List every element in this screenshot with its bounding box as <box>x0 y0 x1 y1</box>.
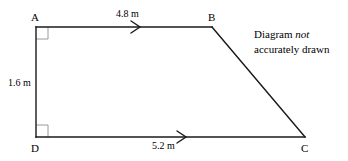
right-angle-marker-d <box>36 125 48 137</box>
right-angle-marker-a <box>36 27 48 39</box>
trapezium-figure <box>0 0 348 161</box>
note-line-1-emphasis: not <box>295 28 309 40</box>
geometry-diagram: A B C D 4.8 m 5.2 m 1.6 m Diagram not ac… <box>0 0 348 161</box>
vertex-label-b: B <box>208 12 215 23</box>
vertex-label-c: C <box>301 143 308 154</box>
note-line-1-prefix: Diagram <box>254 28 295 40</box>
vertex-label-a: A <box>31 12 39 23</box>
measure-label-dc: 5.2 m <box>152 141 175 151</box>
note-line-2: accurately drawn <box>254 43 329 55</box>
not-to-scale-note: Diagram not accurately drawn <box>254 27 329 57</box>
measure-label-ab: 4.8 m <box>116 9 139 19</box>
vertex-label-d: D <box>31 143 39 154</box>
measure-label-ad: 1.6 m <box>8 78 31 88</box>
